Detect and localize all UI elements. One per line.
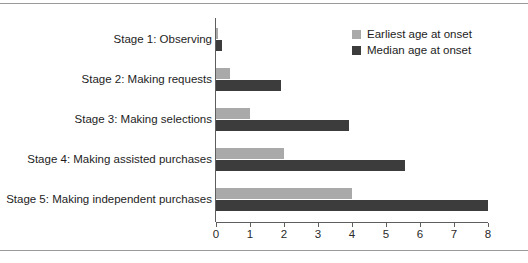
x-axis-tick-label: 2 (272, 228, 296, 240)
x-axis-tick-mark (454, 223, 455, 227)
category-axis-labels: Stage 1: ObservingStage 2: Making reques… (0, 22, 212, 222)
x-axis-tick-label: 7 (442, 228, 466, 240)
bar-group (216, 102, 488, 142)
top-divider-rule (0, 3, 528, 4)
legend-item: Earliest age at onset (352, 27, 472, 41)
x-axis-tick-mark (284, 223, 285, 227)
legend-item: Median age at onset (352, 43, 472, 57)
category-label: Stage 2: Making requests (0, 73, 212, 85)
x-axis-tick-label: 6 (408, 228, 432, 240)
x-axis-tick-mark (318, 223, 319, 227)
bar-median (216, 160, 405, 171)
x-axis-tick-label: 4 (340, 228, 364, 240)
x-axis-tick-mark (386, 223, 387, 227)
x-axis-tick-mark (488, 223, 489, 227)
x-axis-tick-label: 8 (476, 228, 500, 240)
bar-group (216, 62, 488, 102)
bar-earliest (216, 28, 218, 39)
bottom-divider-rule (0, 250, 528, 251)
bar-median (216, 80, 281, 91)
bar-earliest (216, 188, 352, 199)
x-axis-tick-label: 0 (204, 228, 228, 240)
bar-earliest (216, 108, 250, 119)
legend-label: Median age at onset (367, 44, 471, 56)
x-axis-tick-mark (216, 223, 217, 227)
bar-group (216, 142, 488, 182)
legend-label: Earliest age at onset (367, 28, 472, 40)
bar-earliest (216, 68, 230, 79)
x-axis-tick-label: 1 (238, 228, 262, 240)
bar-median (216, 120, 349, 131)
category-label: Stage 3: Making selections (0, 113, 212, 125)
bar-earliest (216, 148, 284, 159)
x-axis-tick-mark (250, 223, 251, 227)
bar-group (216, 182, 488, 222)
x-axis-tick-label: 3 (306, 228, 330, 240)
chart-legend: Earliest age at onsetMedian age at onset (352, 27, 472, 59)
x-axis-tick-mark (420, 223, 421, 227)
x-axis-tick-label: 5 (374, 228, 398, 240)
legend-swatch-icon (352, 46, 361, 55)
category-label: Stage 4: Making assisted purchases (0, 153, 212, 165)
bar-median (216, 200, 488, 211)
bar-median (216, 40, 222, 51)
category-label: Stage 5: Making independent purchases (0, 193, 212, 205)
chart-figure: Stage 1: ObservingStage 2: Making reques… (0, 0, 528, 263)
legend-swatch-icon (352, 30, 361, 39)
x-axis-tick-mark (352, 223, 353, 227)
category-label: Stage 1: Observing (0, 33, 212, 45)
